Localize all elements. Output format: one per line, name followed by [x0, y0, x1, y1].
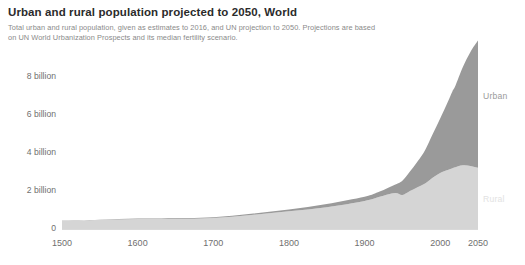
- x-tick-label: 1600: [115, 238, 161, 248]
- plot-area: [0, 0, 525, 265]
- x-tick-label: 2050: [455, 238, 501, 248]
- y-tick-label: 2 billion: [0, 185, 56, 195]
- x-tick-label: 1900: [342, 238, 388, 248]
- stacked-area-svg: [0, 0, 525, 265]
- chart-container: Urban and rural population projected to …: [0, 0, 525, 265]
- x-tick-label: 1500: [39, 238, 85, 248]
- x-tick-label: 1700: [190, 238, 236, 248]
- series-label-urban: Urban: [483, 91, 507, 101]
- y-tick-label: 6 billion: [0, 109, 56, 119]
- y-tick-label: 4 billion: [0, 147, 56, 157]
- y-tick-label: 8 billion: [0, 71, 56, 81]
- y-tick-label: 0: [0, 223, 56, 233]
- series-label-rural: Rural: [483, 194, 505, 204]
- x-tick-label: 1800: [266, 238, 312, 248]
